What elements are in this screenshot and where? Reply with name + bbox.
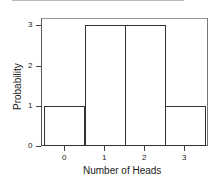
x-axis-label: Number of Heads (83, 165, 161, 176)
y-tick-label-1: 1 (28, 101, 32, 110)
x-tick-label-0: 0 (62, 153, 66, 162)
y-tick-label-0: 0 (28, 141, 32, 150)
y-tick-label-2: 2 (28, 61, 32, 70)
x-tick-label-2: 2 (142, 153, 146, 162)
y-axis-label: Probability (12, 63, 23, 110)
bar-0 (45, 107, 85, 146)
bar-3 (166, 107, 206, 146)
bar-2 (126, 26, 166, 146)
bar-1 (86, 26, 126, 146)
x-tick-label-1: 1 (102, 153, 106, 162)
y-tick-label-3: 3 (28, 20, 32, 29)
x-tick-label-3: 3 (182, 153, 186, 162)
